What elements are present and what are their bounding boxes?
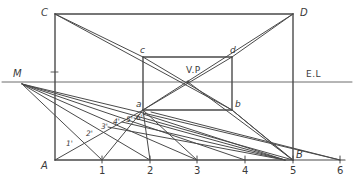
label-outer-bottom-left: A: [41, 161, 48, 171]
label-inner-top-left: c: [140, 46, 145, 55]
depth-mark-label-1: 1': [66, 140, 73, 148]
depth-mark-label-3: 3': [101, 123, 108, 131]
vanishing-point-dot: [187, 81, 190, 84]
baseline-tick-label-5: 5: [290, 166, 296, 176]
figure-canvas: C D A B c d a b M V.P E.L 1 2 3 4 5 6 1'…: [0, 0, 360, 185]
baseline-tick-label-3: 3: [194, 166, 200, 176]
depth-mark-label-5: 5': [126, 116, 133, 124]
label-inner-top-right: d: [230, 46, 236, 55]
depth-mark-label-2: 2': [86, 130, 93, 138]
baseline-tick-label-2: 2: [147, 166, 153, 176]
baseline-tick-label-4: 4: [242, 166, 248, 176]
baseline-tick-label-6: 6: [337, 166, 343, 176]
label-vanishing-point: V.P: [186, 66, 201, 75]
label-eye-level: E.L: [306, 70, 321, 79]
depth-mark-label-4: 4': [113, 118, 120, 126]
label-outer-top-right: D: [300, 8, 308, 18]
diagonal-D-to-a: [143, 14, 293, 110]
measuring-ray-M-3: [22, 84, 197, 160]
receding-edge-D-d: [232, 14, 293, 57]
perspective-diagram-svg: [0, 0, 360, 185]
baseline-tick-label-1: 1: [99, 166, 105, 176]
label-inner-bottom-left: a: [136, 100, 142, 109]
label-measuring-point: M: [13, 69, 22, 79]
label-outer-bottom-right: B: [296, 150, 303, 160]
vp-ray-to-tick-5: [188, 82, 293, 160]
receding-edge-C-c: [55, 14, 143, 57]
floor-grid-line-2: [134, 118, 285, 160]
depth-mark-label-6: 6': [136, 114, 143, 122]
label-inner-bottom-right: b: [235, 100, 241, 109]
label-outer-top-left: C: [41, 8, 48, 18]
